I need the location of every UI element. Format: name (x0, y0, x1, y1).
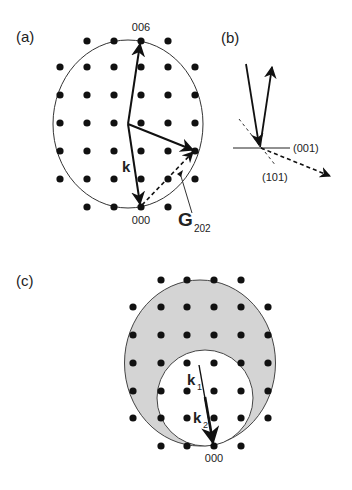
panel-c: (c) k 1 k 2 000 (16, 272, 276, 464)
diffracted-vector-006 (128, 44, 140, 124)
panel-c-label: (c) (16, 272, 34, 289)
diffraction-diagram: (a) 006 000 k (0, 0, 352, 490)
label-g-subscript: 202 (194, 223, 211, 234)
label-000-c: 000 (205, 452, 223, 464)
label-k: k (122, 158, 131, 175)
label-plane-101: (101) (262, 171, 288, 183)
reciprocal-lattice-a (56, 37, 198, 210)
label-k1: k (187, 371, 196, 388)
panel-a: (a) 006 000 k (16, 21, 211, 234)
label-k1-subscript: 1 (197, 382, 202, 392)
label-k2: k (193, 409, 202, 426)
label-000-a: 000 (132, 214, 150, 226)
label-k2-subscript: 2 (203, 420, 208, 430)
label-g: G (178, 209, 193, 230)
label-006: 006 (132, 21, 150, 33)
g-label-leader (180, 173, 192, 213)
panel-b: (b) (001) (101) (221, 29, 330, 183)
label-plane-001: (001) (293, 142, 319, 154)
reflected-ray (260, 67, 272, 147)
diffracted-vector-202 (128, 124, 193, 150)
panel-b-label: (b) (221, 29, 239, 46)
incident-ray (246, 64, 259, 145)
plane-101-line (239, 119, 276, 166)
panel-a-label: (a) (16, 28, 34, 45)
